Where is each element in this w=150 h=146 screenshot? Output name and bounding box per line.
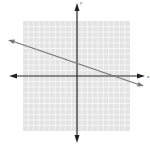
x-axis-arrow-right-icon <box>137 74 145 79</box>
line-arrow-right-icon <box>137 82 144 87</box>
line-arrow-left-icon <box>8 40 15 45</box>
y-axis-arrow-down-icon <box>75 135 80 143</box>
y-axis-label: y <box>79 0 83 5</box>
graph-svg: x y <box>0 0 150 146</box>
x-axis-label: x <box>146 74 150 79</box>
y-axis-arrow-up-icon <box>75 3 80 11</box>
coordinate-plane: x y <box>0 0 150 146</box>
x-axis-arrow-left-icon <box>9 74 17 79</box>
